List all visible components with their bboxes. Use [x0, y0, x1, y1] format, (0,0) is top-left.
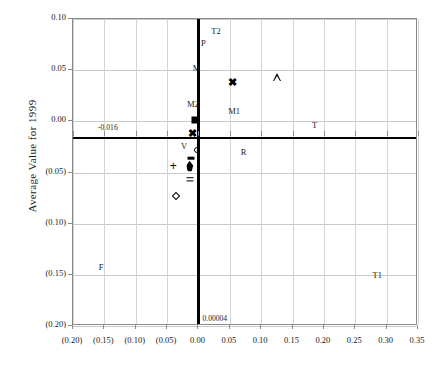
triangle-inner	[274, 76, 280, 81]
gridline-x	[167, 19, 168, 324]
x-tick	[197, 325, 198, 329]
x-tick	[72, 325, 73, 329]
y-reference-annotation: -0.016	[98, 123, 118, 132]
reference-tick	[230, 131, 231, 136]
x-tick	[229, 325, 230, 329]
x-tick	[354, 325, 355, 329]
gridline-x	[355, 19, 356, 324]
marker-bold-x: ✖	[228, 77, 237, 88]
y-tick-label: (0.05)	[22, 166, 66, 176]
point-label-P: P	[201, 38, 206, 48]
x-tick	[386, 325, 387, 329]
gridline-x	[293, 19, 294, 324]
gridline-x	[418, 19, 419, 324]
point-label-T1: T1	[372, 270, 381, 280]
y-tick-label: (0.10)	[22, 217, 66, 227]
plot-area: ✖✖+ M2MM1VRT2PTFT1 -0.016 0.00004	[72, 18, 417, 325]
y-tick-label: (0.15)	[22, 268, 66, 278]
marker-open-circle	[194, 147, 200, 153]
gridline-x	[387, 19, 388, 324]
reference-tick	[198, 131, 199, 136]
x-tick	[260, 325, 261, 329]
gridline-x	[324, 19, 325, 324]
gridline-y	[73, 173, 416, 174]
gridline-y	[73, 224, 416, 225]
x-tick	[417, 325, 418, 329]
y-tick	[68, 172, 72, 173]
gridline-x	[230, 19, 231, 324]
gridline-x	[73, 19, 74, 324]
y-tick	[68, 325, 72, 326]
point-label-T2: T2	[211, 26, 220, 36]
y-tick	[68, 274, 72, 275]
gridline-y	[73, 326, 416, 327]
point-label-V: V	[181, 141, 187, 151]
x-tick	[135, 325, 136, 329]
gridline-y	[73, 275, 416, 276]
point-label-M1: M1	[228, 106, 240, 116]
point-label-T: T	[312, 120, 317, 130]
y-tick-label: (0.20)	[22, 319, 66, 329]
reference-tick	[167, 131, 168, 136]
reference-tick	[324, 131, 325, 136]
point-label-M: M	[193, 63, 201, 73]
gridline-x	[261, 19, 262, 324]
chart-container: Average Value for 1999 ✖✖+ M2MM1VRT2PTFT…	[0, 0, 434, 375]
marker-filled-square	[192, 117, 199, 124]
y-tick-label: 0.05	[22, 63, 66, 73]
y-tick	[68, 223, 72, 224]
horizontal-reference-line	[73, 137, 416, 139]
reference-tick	[73, 131, 74, 136]
point-label-F: F	[99, 262, 104, 272]
reference-tick	[355, 131, 356, 136]
reference-tick	[387, 131, 388, 136]
y-tick	[68, 69, 72, 70]
gridline-y	[73, 70, 416, 71]
reference-tick	[293, 131, 294, 136]
x-tick-label: 0.35	[397, 335, 434, 345]
gridline-x	[136, 19, 137, 324]
marker-bold-x: ✖	[188, 127, 197, 138]
reference-tick	[136, 131, 137, 136]
x-tick	[323, 325, 324, 329]
x-tick	[166, 325, 167, 329]
reference-tick	[418, 131, 419, 136]
y-tick	[68, 18, 72, 19]
y-tick	[68, 120, 72, 121]
marker-equals	[186, 177, 193, 179]
marker-open-diamond	[172, 192, 180, 200]
gridline-x	[104, 19, 105, 324]
x-tick	[292, 325, 293, 329]
marker-dash	[187, 157, 194, 160]
marker-plus: +	[170, 161, 177, 172]
x-reference-annotation: 0.00004	[202, 314, 227, 323]
marker-filled-drop	[186, 161, 193, 172]
y-tick-label: 0.00	[22, 114, 66, 124]
reference-tick	[261, 131, 262, 136]
point-label-R: R	[241, 147, 247, 157]
y-tick-label: 0.10	[22, 12, 66, 22]
gridline-y	[73, 121, 416, 122]
marker-open-triangle	[273, 73, 281, 81]
gridline-y	[73, 19, 416, 20]
point-label-M2: M2	[187, 99, 199, 109]
x-tick	[103, 325, 104, 329]
